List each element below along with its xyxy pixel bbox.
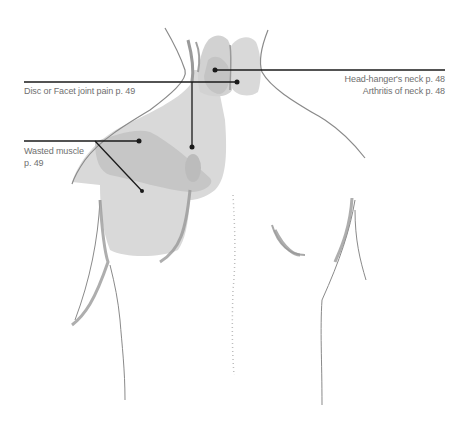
label-head-hangers-neck: Head-hanger's neck p. 48 [345, 73, 445, 85]
wasted-muscle-upper-point [137, 139, 142, 144]
disc-spot-zone [185, 154, 201, 182]
label-wasted-muscle: Wasted muscle [24, 145, 84, 157]
arthritis-point [235, 80, 240, 85]
anatomy-illustration [0, 0, 471, 427]
label-disc-facet-joint-pain: Disc or Facet joint pain p. 49 [24, 85, 135, 97]
label-wasted-muscle-page: p. 49 [24, 157, 44, 169]
disc-facet-point [190, 145, 195, 150]
head-hanger-point [213, 68, 218, 73]
wasted-muscle-lower-point [140, 189, 144, 193]
neck-right-zone [230, 37, 261, 95]
label-arthritis-of-neck: Arthritis of neck p. 48 [363, 85, 445, 97]
body-diagram: Head-hanger's neck p. 48 Arthritis of ne… [0, 0, 471, 427]
